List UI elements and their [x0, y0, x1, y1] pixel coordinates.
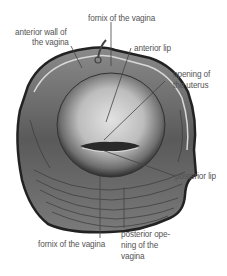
label-posterior-opening-line2: ning of the — [121, 241, 158, 251]
label-opening-uterus-line2: the uterus — [173, 81, 208, 91]
label-anterior-lip: anterior lip — [134, 44, 171, 54]
label-anterior-wall-line1: anterior wall of — [15, 28, 67, 38]
label-opening-uterus-line1: opening of — [173, 70, 210, 80]
label-posterior-lip: posterior lip — [175, 172, 216, 182]
label-anterior-wall-line2: the vagina — [32, 38, 69, 48]
label-posterior-opening-line3: vagina — [121, 252, 145, 262]
cervix — [57, 73, 165, 177]
label-fornix-bottom: fornix of the vagina — [38, 240, 105, 250]
label-posterior-opening-line1: posterior ope- — [121, 230, 170, 240]
label-fornix-top: fornix of the vagina — [88, 14, 155, 24]
